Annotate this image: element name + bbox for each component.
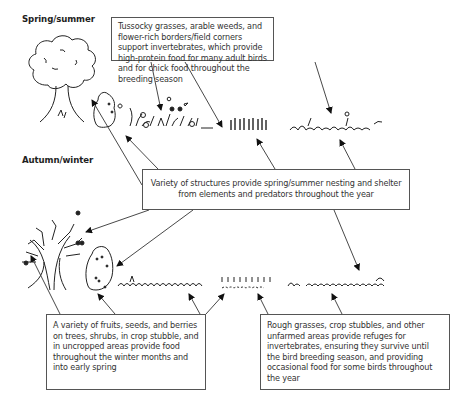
season-label-autumn-winter: Autumn/winter <box>22 155 93 165</box>
rough-grass-winter-icon <box>288 278 384 286</box>
weedy-stubble-icon <box>118 276 202 286</box>
callout-invertebrate-food: Tussocky grasses, arable weeds, and flow… <box>111 17 274 61</box>
bare-tree-with-fruit-icon <box>22 211 84 290</box>
callout-refuges: Rough grasses, crop stubbles, and other … <box>260 314 450 390</box>
rough-grass-icon <box>290 112 382 130</box>
callout-text: A variety of fruits, seeds, and berries … <box>53 320 199 373</box>
leafy-tree-icon <box>29 36 96 122</box>
flowering-weeds-icon <box>118 97 198 127</box>
callout-nesting-shelter: Variety of structures provide spring/sum… <box>142 169 410 210</box>
callout-winter-food: A variety of fruits, seeds, and berries … <box>46 314 206 390</box>
callout-text: Tussocky grasses, arable weeds, and flow… <box>118 21 267 85</box>
callout-text: Rough grasses, crop stubbles, and other … <box>267 320 443 384</box>
tussocky-grass-icon <box>201 118 266 130</box>
callout-text: Variety of structures provide spring/sum… <box>149 178 403 199</box>
crop-stubble-icon <box>222 277 270 288</box>
season-label-spring-summer: Spring/summer <box>22 14 95 24</box>
arrows-refuges <box>258 294 342 314</box>
berry-shrub-icon <box>86 247 113 290</box>
